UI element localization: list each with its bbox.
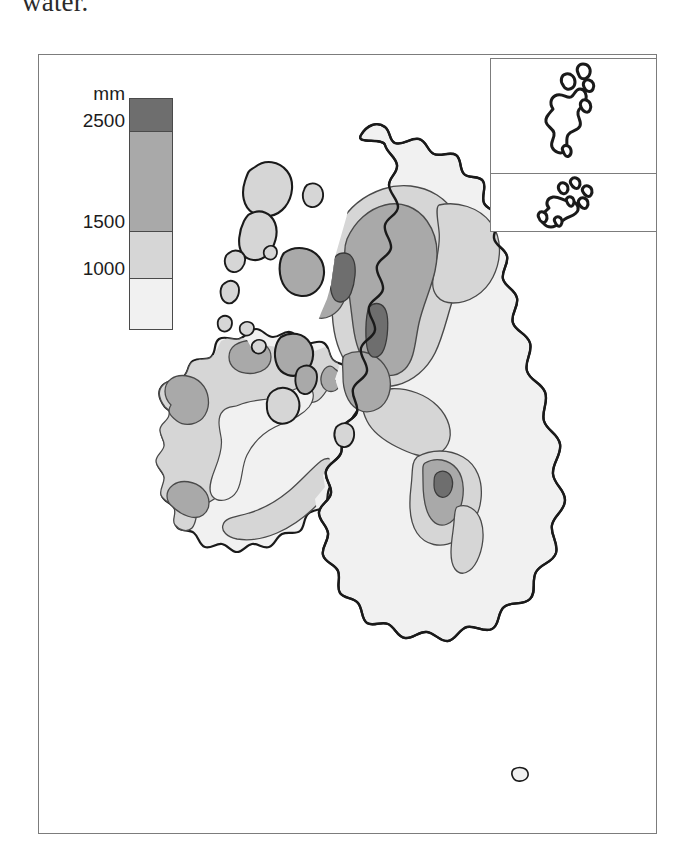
hebrides-small-isle-2 [240,322,254,336]
southwest-band-1000 [288,722,369,781]
shetland-inset [490,58,657,174]
shetland-unst [577,64,590,79]
legend-band-under-1000 [130,278,172,329]
hebrides-islay [267,388,300,424]
isle-of-wight [512,768,528,782]
legend-break-2500: 2500 [83,111,125,130]
hebrides-small-isle-1 [264,246,277,260]
shetland-fetlar [583,80,593,92]
legend-band-over-2500 [130,99,172,131]
hebrides-uist-n [225,251,245,273]
shetland-yell [561,74,575,89]
legend-break-1000: 1000 [83,259,125,278]
shetland-bressay [580,100,590,112]
orkney-stronsay [578,198,588,209]
north-isle-a [303,183,323,207]
orkney-hoy [538,212,547,223]
legend-unit-label: mm [93,84,125,103]
orkney-shapinsay [566,197,574,206]
dartmoor-core [331,744,349,762]
orkney-south-ronaldsay [554,217,562,226]
orkney-sanday [582,186,592,197]
hebrides-arran [334,423,354,447]
legend-band-1000-1500 [130,231,172,279]
orkney-islands [538,178,592,227]
outer-hebrides-lewis [243,162,292,216]
orkney-rousay [558,183,568,194]
legend-band-1500-2500 [130,131,172,231]
legend-break-1500: 1500 [83,212,125,231]
shetland-south-tip [562,145,571,156]
orkney-westray [570,178,580,189]
shetland-islands [546,64,594,157]
rainfall-legend: mm 2500 1500 1000 [64,84,179,334]
hebrides-uist-s [221,281,239,304]
hebrides-small-isle-3 [252,340,266,354]
orkney-inset [490,173,657,232]
hebrides-jura [295,366,317,394]
shetland-mainland [546,89,586,153]
legend-color-bar [129,98,173,330]
hebrides-barra [218,316,232,332]
caption-text: water. [22,0,88,18]
hebrides-skye [280,248,324,296]
region-north-isles [303,183,323,207]
map-figure-frame: mm 2500 1500 1000 [38,54,657,834]
lake-district-band-2500 [434,471,453,497]
